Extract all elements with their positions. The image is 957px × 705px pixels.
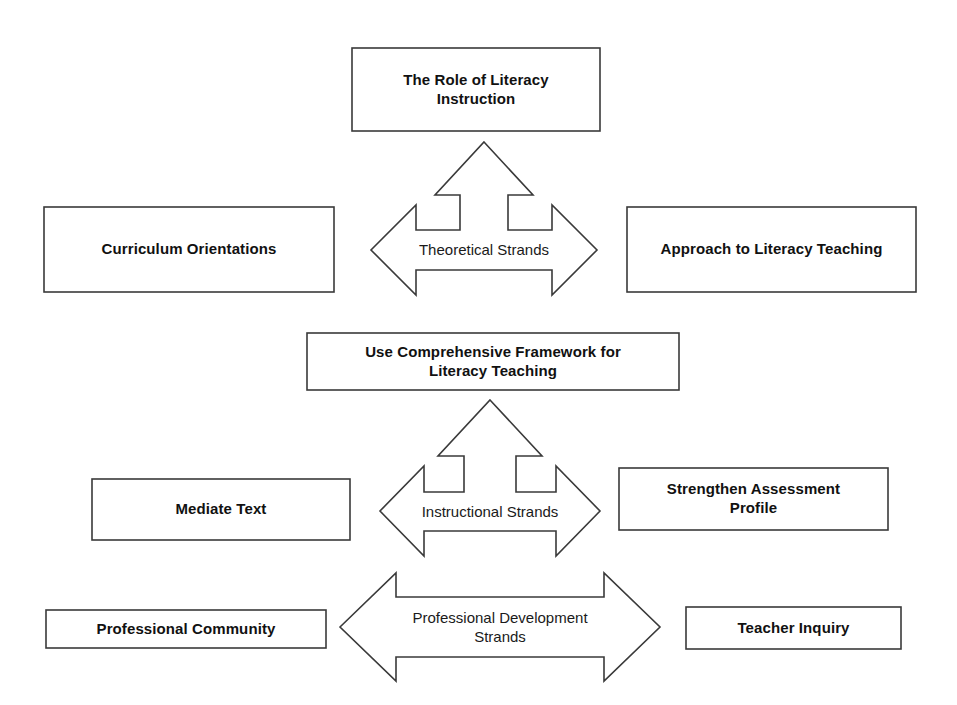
box-role-of-literacy-outline: [352, 48, 600, 131]
diagram-vector-layer: [0, 0, 957, 705]
box-strengthen-assessment-profile-outline: [619, 468, 888, 530]
arrow-theoretical-strands-outline: [371, 142, 597, 295]
box-use-comprehensive-framework-outline: [307, 333, 679, 390]
box-curriculum-orientations-outline: [44, 207, 334, 292]
arrow-professional-development-strands-outline: [340, 573, 660, 681]
box-mediate-text-outline: [92, 479, 350, 540]
box-approach-to-literacy-teaching-outline: [627, 207, 916, 292]
diagram-canvas: The Role of Literacy Instruction Theoret…: [0, 0, 957, 705]
arrow-instructional-strands-outline: [380, 400, 600, 556]
box-professional-community-outline: [46, 610, 326, 648]
box-teacher-inquiry-outline: [686, 607, 901, 649]
